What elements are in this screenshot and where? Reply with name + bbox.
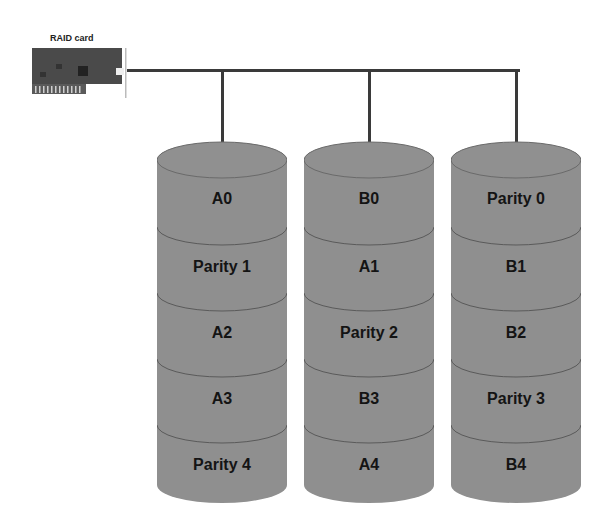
block-label: B4 xyxy=(451,456,581,474)
bus-drop-disk-3 xyxy=(515,69,518,145)
disk-3: Parity 0 B1 B2 Parity 3 B4 xyxy=(451,140,581,510)
bus-line-horizontal xyxy=(127,69,520,72)
block-label: A2 xyxy=(157,324,287,342)
bus-drop-disk-2 xyxy=(368,69,371,145)
block-label: A1 xyxy=(304,258,434,276)
block-label: B2 xyxy=(451,324,581,342)
block-label: B1 xyxy=(451,258,581,276)
bus-drop-disk-1 xyxy=(221,69,224,145)
block-label: A4 xyxy=(304,456,434,474)
block-label: A0 xyxy=(157,190,287,208)
block-label: B3 xyxy=(304,390,434,408)
block-label: A3 xyxy=(157,390,287,408)
block-label: Parity 1 xyxy=(157,258,287,276)
block-label: B0 xyxy=(304,190,434,208)
block-label: Parity 2 xyxy=(304,324,434,342)
block-label: Parity 3 xyxy=(451,390,581,408)
raid-card-icon xyxy=(32,48,127,98)
raid-card-label: RAID card xyxy=(50,33,94,43)
block-label: Parity 4 xyxy=(157,456,287,474)
disk-2: B0 A1 Parity 2 B3 A4 xyxy=(304,140,434,510)
disk-1: A0 Parity 1 A2 A3 Parity 4 xyxy=(157,140,287,510)
block-label: Parity 0 xyxy=(451,190,581,208)
